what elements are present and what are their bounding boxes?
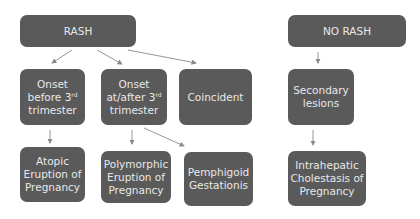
arrow-onset-after-to-pemphigoid — [144, 128, 184, 146]
node-line: Cholestasis of — [290, 172, 363, 185]
node-line: Eruption of — [24, 168, 82, 181]
node-coincident-label: Coincident — [188, 91, 244, 104]
node-no-rash: NO RASH — [288, 15, 406, 47]
node-line: Onset — [28, 78, 78, 91]
node-onset-before-third-trimester: Onset before 3rd trimester — [20, 69, 85, 125]
node-line: lesions — [293, 97, 349, 110]
arrow-rash-to-coincident — [128, 50, 196, 63]
node-line: at/after 3rd — [106, 91, 161, 104]
node-atopic-eruption: Atopic Eruption of Pregnancy — [20, 147, 85, 202]
node-line: trimester — [106, 104, 161, 117]
arrow-rash-to-onset-before — [52, 50, 72, 63]
node-no-rash-label: NO RASH — [323, 25, 371, 38]
node-line: Pregnancy — [104, 184, 169, 197]
node-line: Secondary — [293, 84, 349, 97]
arrow-rash-to-onset-after — [97, 50, 122, 64]
node-line: Polymorphic — [104, 158, 169, 171]
node-rash: RASH — [20, 15, 136, 47]
node-rash-label: RASH — [64, 25, 93, 38]
node-line: Onset — [106, 78, 161, 91]
node-line: before 3rd — [28, 91, 78, 104]
node-line: Pemphigoid — [188, 166, 250, 179]
node-polymorphic-eruption: Polymorphic Eruption of Pregnancy — [101, 151, 171, 203]
node-pemphigoid-gestationis: Pemphigoid Gestationis — [184, 152, 253, 206]
node-coincident: Coincident — [179, 69, 252, 125]
node-line: Gestationis — [188, 179, 250, 192]
node-secondary-lesions: Secondary lesions — [288, 69, 354, 125]
node-onset-at-after-third-trimester: Onset at/after 3rd trimester — [101, 69, 167, 125]
node-line: trimester — [28, 104, 78, 117]
node-line: Intrahepatic — [290, 159, 363, 172]
node-line: Pregnancy — [290, 185, 363, 198]
node-line: Atopic — [24, 155, 82, 168]
node-line: Pregnancy — [24, 181, 82, 194]
node-intrahepatic-cholestasis: Intrahepatic Cholestasis of Pregnancy — [288, 151, 366, 206]
node-line: Eruption of — [104, 171, 169, 184]
